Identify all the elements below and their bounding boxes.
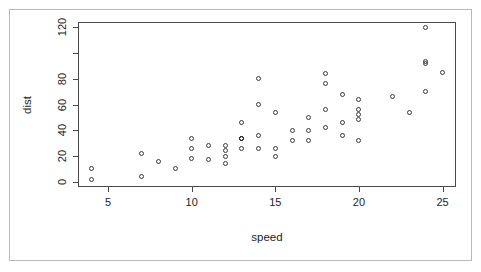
y-tick-mark: [73, 130, 78, 131]
x-tick-mark: [359, 187, 360, 192]
x-tick-label: 25: [436, 196, 448, 208]
data-point: [340, 92, 345, 97]
data-point: [89, 177, 94, 182]
y-tick-label: 20: [56, 150, 68, 162]
y-tick-mark: [73, 182, 78, 183]
x-axis-title: speed: [251, 231, 282, 243]
x-tick-mark: [192, 187, 193, 192]
data-point: [189, 136, 194, 141]
data-point: [290, 138, 295, 143]
y-axis-title: dist: [21, 96, 33, 114]
x-tick-label: 20: [353, 196, 365, 208]
data-point: [273, 146, 278, 151]
y-tick-label: 40: [56, 124, 68, 136]
y-tick-label: 80: [56, 73, 68, 85]
y-tick-mark: [73, 105, 78, 106]
data-point: [290, 128, 295, 133]
data-point: [139, 151, 144, 156]
x-tick-mark: [108, 187, 109, 192]
data-point: [440, 70, 445, 75]
y-tick-mark: [73, 53, 78, 54]
data-point: [256, 146, 261, 151]
data-point: [223, 143, 228, 148]
data-point: [223, 161, 228, 166]
data-point: [340, 133, 345, 138]
scatter-plot-figure: 510152025 020406080120 speed dist: [0, 0, 481, 272]
plot-frame-box: [78, 22, 456, 187]
data-point: [273, 154, 278, 159]
data-point: [156, 159, 161, 164]
y-tick-mark: [73, 156, 78, 157]
data-point: [273, 110, 278, 115]
y-tick-label: 0: [56, 179, 68, 185]
x-tick-label: 15: [269, 196, 281, 208]
x-tick-mark: [275, 187, 276, 192]
y-tick-mark: [73, 27, 78, 28]
x-tick-mark: [443, 187, 444, 192]
data-point: [340, 120, 345, 125]
x-tick-label: 5: [105, 196, 111, 208]
y-tick-mark: [73, 79, 78, 80]
x-tick-label: 10: [186, 196, 198, 208]
data-point: [407, 110, 412, 115]
data-point: [223, 154, 228, 159]
y-tick-label: 60: [56, 98, 68, 110]
plot-area: 510152025 020406080120: [0, 0, 481, 272]
y-tick-label: 120: [56, 18, 68, 36]
